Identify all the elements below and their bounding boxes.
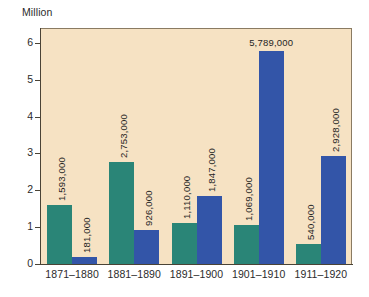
bar-value-label: 5,789,000 (247, 37, 296, 48)
bar-group: 1,069,0005,789,000 (234, 28, 284, 264)
bar-group: 1,593,000181,000 (47, 28, 97, 264)
x-axis-category-label: 1901–1910 (228, 268, 290, 280)
bar-value-label: 926,000 (143, 190, 154, 226)
y-axis-tick-label: 6 (3, 36, 33, 48)
bar-value-label: 540,000 (305, 204, 316, 240)
bar-series-blue-3[interactable] (259, 51, 284, 264)
bar-series-teal-3[interactable] (234, 225, 259, 264)
bars-layer: 1,593,000181,0002,753,000926,0001,110,00… (41, 28, 352, 264)
bar-series-teal-0[interactable] (47, 205, 72, 264)
bar-chart: Million 0123456 1,593,000181,0002,753,00… (0, 0, 369, 297)
bar-value-label: 181,000 (81, 218, 92, 254)
bar-group: 540,0002,928,000 (296, 28, 346, 264)
y-axis-tick-label: 4 (3, 110, 33, 122)
y-axis-unit-caption: Million (22, 6, 52, 18)
x-axis-category-label: 1911–1920 (290, 268, 352, 280)
bar-series-teal-1[interactable] (109, 162, 134, 264)
bar-value-label: 1,110,000 (181, 176, 192, 219)
y-axis-tick-label: 1 (3, 220, 33, 232)
y-axis-tick (35, 264, 41, 265)
bar-series-teal-4[interactable] (296, 244, 321, 264)
bar-value-label: 1,593,000 (56, 157, 67, 201)
bar-value-label: 1,847,000 (206, 148, 217, 192)
x-axis-category-label: 1891–1900 (165, 268, 227, 280)
bar-group: 2,753,000926,000 (109, 28, 159, 264)
bar-value-label: 2,753,000 (118, 114, 129, 158)
y-axis-tick-label: 2 (3, 183, 33, 195)
bar-group: 1,110,0001,847,000 (172, 28, 222, 264)
bar-series-blue-1[interactable] (134, 230, 159, 264)
bar-series-blue-0[interactable] (72, 257, 97, 264)
y-axis-tick-label: 0 (3, 257, 33, 269)
x-axis-line (40, 264, 353, 265)
bar-series-blue-2[interactable] (197, 196, 222, 264)
bar-series-blue-4[interactable] (321, 156, 346, 264)
bar-value-label: 2,928,000 (330, 108, 341, 152)
x-axis-category-label: 1871–1880 (41, 268, 103, 280)
y-axis-tick-label: 3 (3, 146, 33, 158)
y-axis-tick-label: 5 (3, 73, 33, 85)
bar-series-teal-2[interactable] (172, 223, 197, 264)
bar-value-label: 1,069,000 (243, 177, 254, 221)
x-axis-category-label: 1881–1890 (103, 268, 165, 280)
